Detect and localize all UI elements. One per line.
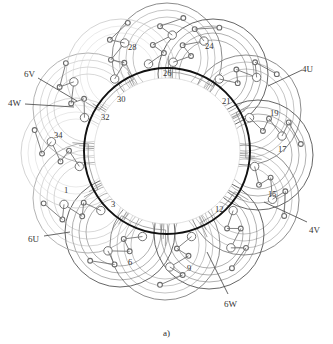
end-turn-leg [79, 146, 95, 147]
stator-bore-circle-layer [84, 68, 250, 234]
slot-number-label-30: 30 [117, 95, 126, 104]
node-connector [255, 62, 277, 74]
node-connector [160, 18, 183, 26]
slot-number-label-28: 28 [128, 43, 137, 52]
junction-node [217, 25, 222, 30]
slot-number-label-6: 6 [128, 258, 132, 267]
leader-line-6W [207, 252, 228, 294]
phase-terminal-label-4U: 4U [302, 65, 313, 74]
junction-node [274, 72, 279, 77]
leader-line-4V [264, 202, 307, 222]
junction-node [282, 214, 287, 219]
slot-number-label-26: 26 [163, 69, 172, 78]
junction-node [230, 266, 235, 271]
phase-terminal-label-6W: 6W [224, 300, 237, 309]
junction-node [181, 16, 186, 21]
junction-node [88, 258, 93, 263]
slot-number-label-3: 3 [111, 200, 115, 209]
phase-terminal-label-4W: 4W [8, 99, 21, 108]
junction-node [80, 214, 85, 219]
slot-number-label-9: 9 [187, 264, 191, 273]
leader-line-6U [44, 232, 70, 236]
slot-number-label-34: 34 [54, 131, 63, 140]
node-connector [60, 63, 66, 87]
end-turn-leg [163, 223, 164, 239]
slot-number-label-15: 15 [268, 190, 277, 199]
bore-inner-circle [94, 78, 240, 224]
terminal-node [75, 162, 83, 170]
phase-terminal-label-6U: 6U [28, 235, 39, 244]
end-turn-leg [239, 155, 255, 156]
stator-winding-diagram [0, 0, 333, 344]
node-connector [110, 23, 128, 40]
slot-number-label-19: 19 [270, 109, 279, 118]
junction-node [261, 129, 266, 134]
figure-caption: a) [0, 328, 333, 338]
slot-number-label-1: 1 [64, 186, 68, 195]
junction-node [180, 273, 185, 278]
junction-node [63, 61, 68, 66]
slot-number-label-12: 12 [215, 205, 224, 214]
junction-node [186, 253, 191, 258]
junction-node [125, 20, 130, 25]
slot-number-label-21: 21 [222, 97, 231, 106]
junction-node [298, 142, 303, 147]
slot-number-label-32: 32 [101, 113, 110, 122]
terminal-node [70, 78, 78, 86]
phase-terminal-label-6V: 6V [24, 70, 35, 79]
phase-terminal-label-4V: 4V [309, 226, 320, 235]
slot-number-label-17: 17 [278, 145, 287, 154]
junction-node [41, 201, 46, 206]
junction-node [32, 128, 37, 133]
junction-node [158, 282, 163, 287]
slot-number-label-24: 24 [205, 42, 214, 51]
terminal-node [278, 132, 286, 140]
terminal-node [166, 263, 174, 271]
node-connector [35, 130, 42, 154]
